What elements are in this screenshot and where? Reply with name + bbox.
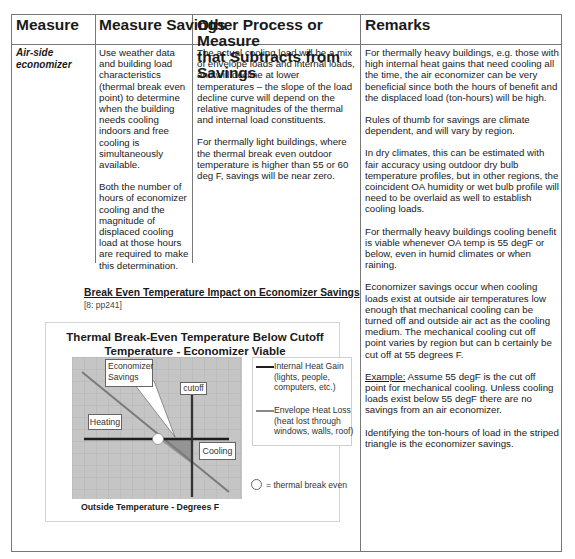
chart-xlabel: Outside Temperature - Degrees F <box>60 502 240 512</box>
legend-envelope-text: Envelope Heat Loss (heat lost through wi… <box>274 405 353 437</box>
col-divider-3 <box>360 14 361 552</box>
chart-title-line1: Thermal Break-Even Temperature Below Cut… <box>50 330 340 344</box>
economizer-label-line2: Savings <box>108 372 150 383</box>
remarks-cell: For thermally heavy buildings, e.g. thos… <box>365 47 559 460</box>
legend-internal-text: Internal Heat Gain (lights, people, comp… <box>274 361 344 393</box>
legend-internal-line3: computers, etc.) <box>274 382 344 393</box>
legend-envelope-swatch <box>256 410 274 412</box>
figure-caption-title: Break Even Temperature Impact on Economi… <box>84 287 360 298</box>
chart-title: Thermal Break-Even Temperature Below Cut… <box>50 330 340 358</box>
economizer-savings-label: Economizer Savings <box>105 359 153 387</box>
legend-envelope-line2: (heat lost through <box>274 416 353 427</box>
subtracts-cell: The actual cooling load will be a mix of… <box>197 47 357 192</box>
legend-internal-line2: (lights, people, <box>274 372 344 383</box>
break-even-legend-icon <box>251 479 262 490</box>
legend-envelope-line3: windows, walls, roof) <box>274 426 353 437</box>
remarks-paragraph: For thermally heavy buildings cooling be… <box>365 226 559 271</box>
remarks-paragraph: In dry climates, this can be estimated w… <box>365 147 559 214</box>
legend-internal-swatch <box>256 366 274 368</box>
header-subtracts-line1: Other Process or Measure <box>197 17 359 49</box>
header-remarks: Remarks <box>365 17 431 33</box>
subtracts-paragraph: For thermally light buildings, where the… <box>197 136 357 181</box>
figure-caption-ref: [8: pp241] <box>84 300 122 310</box>
savings-paragraph: Both the number of hours of economizer c… <box>99 181 191 271</box>
measure-name-line1: Air-side <box>16 47 72 59</box>
remarks-paragraph: Rules of thumb for savings are climate d… <box>365 114 559 136</box>
remarks-paragraph: Economizer savings occur when cooling lo… <box>365 281 559 359</box>
cutoff-label: cutoff <box>180 382 207 395</box>
remarks-paragraph: Identifying the ton-hours of load in the… <box>365 427 559 449</box>
legend-internal-line1: Internal Heat Gain <box>274 361 344 372</box>
remarks-paragraph: For thermally heavy buildings, e.g. thos… <box>365 47 559 103</box>
header-measure: Measure <box>16 17 79 33</box>
legend-break-even-text: = thermal break even <box>266 480 347 491</box>
chart-title-line2: Temperature - Economizer Viable <box>50 344 340 358</box>
remarks-example: Example: Assume 55 degF is the cut off p… <box>365 371 559 416</box>
break-even-marker <box>153 434 164 445</box>
col-divider-1 <box>95 14 96 263</box>
heating-label: Heating <box>88 414 122 430</box>
cooling-label: Cooling <box>199 442 236 460</box>
measure-name: Air-side economizer <box>16 47 72 70</box>
col-divider-2 <box>192 14 193 263</box>
example-label: Example: <box>365 371 405 382</box>
measure-savings-cell: Use weather data and building load chara… <box>99 47 191 282</box>
subtracts-paragraph: The actual cooling load will be a mix of… <box>197 47 357 125</box>
economizer-label-line1: Economizer <box>108 361 150 372</box>
legend-envelope-line1: Envelope Heat Loss <box>274 405 353 416</box>
measure-name-line2: economizer <box>16 59 72 71</box>
savings-paragraph: Use weather data and building load chara… <box>99 47 191 170</box>
